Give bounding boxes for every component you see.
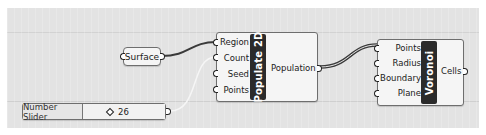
plane-grip[interactable] <box>374 90 379 97</box>
input-region[interactable]: Region <box>220 37 249 47</box>
input-points[interactable]: Points <box>223 85 249 95</box>
voronoi-component[interactable]: Points Radius Boundary Plane Voronoi Cel… <box>377 39 464 106</box>
number-slider[interactable]: Number Slider 26 <box>22 103 166 120</box>
points-grip[interactable] <box>374 45 379 52</box>
points-grip[interactable] <box>213 86 218 93</box>
voronoi-title: Voronoi <box>424 50 435 95</box>
output-population[interactable]: Population <box>271 63 316 73</box>
input-count[interactable]: Count <box>224 53 249 63</box>
wire-slider-count[interactable] <box>170 57 216 111</box>
voronoi-title-strip[interactable]: Voronoi <box>421 41 437 104</box>
output-cells[interactable]: Cells <box>441 66 461 76</box>
input-points[interactable]: Points <box>395 43 421 53</box>
input-boundary[interactable]: Boundary <box>380 73 421 83</box>
diamond-icon[interactable] <box>106 107 114 115</box>
radius-grip[interactable] <box>374 60 379 67</box>
populate-2d-component[interactable]: Region Count Seed Points Populate 2D Pop… <box>216 32 318 102</box>
slider-value: 26 <box>118 107 129 117</box>
seed-grip[interactable] <box>213 70 218 77</box>
count-grip[interactable] <box>213 54 218 61</box>
input-plane[interactable]: Plane <box>398 88 421 98</box>
populate-2d-title-strip[interactable]: Populate 2D <box>250 34 266 100</box>
wire-surface-region[interactable] <box>161 42 216 56</box>
slider-track[interactable]: 26 <box>83 104 165 119</box>
surface-label: Surface <box>124 48 160 65</box>
wire-population-points[interactable] <box>320 45 377 67</box>
region-grip[interactable] <box>213 39 218 46</box>
slider-name: Number Slider <box>23 104 83 119</box>
populate-2d-title: Populate 2D <box>253 31 264 102</box>
boundary-grip[interactable] <box>374 75 379 82</box>
input-seed[interactable]: Seed <box>228 69 249 79</box>
surface-input-grip[interactable] <box>120 53 125 60</box>
input-radius[interactable]: Radius <box>392 58 421 68</box>
surface-param[interactable]: Surface <box>123 47 161 66</box>
